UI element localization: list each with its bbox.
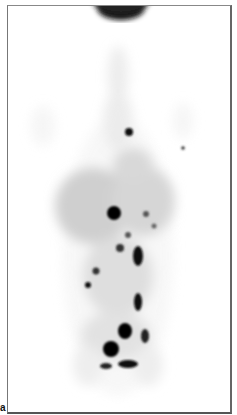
pet-scan-image xyxy=(7,5,232,414)
pet-mip-body xyxy=(8,6,230,412)
panel-label: a xyxy=(0,403,6,413)
